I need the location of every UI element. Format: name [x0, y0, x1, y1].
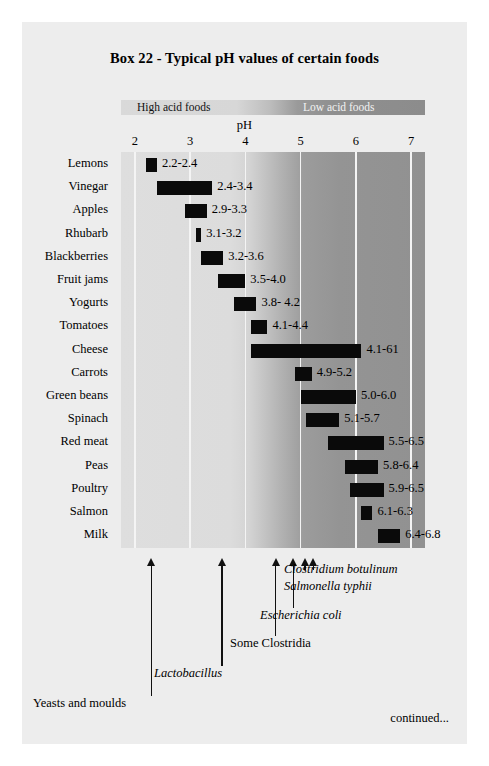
bar-red-meat [328, 436, 383, 450]
bar-value-label: 4.9-5.2 [317, 365, 352, 380]
bar-rhubarb [196, 228, 202, 242]
bar-row: 2.2-2.4 [121, 154, 425, 176]
bar-vinegar [157, 181, 212, 195]
high-acid-label: High acid foods [137, 100, 210, 115]
bar-value-label: 2.2-2.4 [162, 156, 197, 171]
bar-fruit-jams [218, 274, 246, 288]
acidity-gradient-band: High acid foods Low acid foods [121, 100, 425, 115]
food-label-yogurts: Yogurts [69, 295, 108, 310]
bar-row: 5.5-6.5 [121, 432, 425, 454]
bar-row: 4.1-4.4 [121, 316, 425, 338]
bar-row: 3.1-3.2 [121, 224, 425, 246]
low-acid-label: Low acid foods [303, 100, 375, 115]
bar-value-label: 5.0-6.0 [361, 388, 396, 403]
x-tick-5: 5 [298, 134, 304, 149]
annotation-label-clostridium-botulinum: Clostridium botulinum [284, 562, 398, 577]
bar-lemons [146, 158, 157, 172]
bar-value-label: 5.1-5.7 [344, 411, 379, 426]
arrow-line-salmonella-typhii [313, 565, 314, 570]
annotation-label-escherichia-coli: Escherichia coli [260, 608, 342, 623]
x-tick-3: 3 [187, 134, 193, 149]
food-label-vinegar: Vinegar [68, 179, 108, 194]
bar-value-label: 2.4-3.4 [217, 179, 252, 194]
bar-value-label: 3.5-4.0 [250, 272, 285, 287]
food-label-spinach: Spinach [68, 411, 108, 426]
bar-row: 5.1-5.7 [121, 409, 425, 431]
bar-row: 2.4-3.4 [121, 177, 425, 199]
bar-value-label: 5.8-6.4 [383, 458, 418, 473]
page-title: Box 22 - Typical pH values of certain fo… [22, 50, 467, 67]
food-label-rhubarb: Rhubarb [65, 226, 108, 241]
food-label-blackberries: Blackberries [45, 249, 108, 264]
annotation-label-lactobacillus: Lactobacillus [154, 666, 222, 681]
annotation-label-yeasts-and-moulds: Yeasts and moulds [33, 696, 126, 711]
bar-value-label: 3.2-3.6 [228, 249, 263, 264]
food-label-lemons: Lemons [68, 156, 108, 171]
food-label-apples: Apples [73, 202, 108, 217]
annotation-label-salmonella-typhii: Salmonella typhii [284, 579, 372, 594]
bar-value-label: 5.9-6.5 [389, 481, 424, 496]
food-label-poultry: Poultry [71, 481, 108, 496]
bar-row: 6.4-6.8 [121, 525, 425, 547]
bar-value-label: 6.1-6.3 [377, 504, 412, 519]
bar-value-label: 2.9-3.3 [212, 202, 247, 217]
x-tick-6: 6 [353, 134, 359, 149]
continued-label: continued... [390, 711, 449, 726]
food-label-green-beans: Green beans [46, 388, 108, 403]
food-label-cheese: Cheese [72, 342, 108, 357]
annotation-label-some-clostridia: Some Clostridia [230, 636, 311, 651]
bar-value-label: 6.4-6.8 [405, 527, 440, 542]
arrow-line-lactobacillus [221, 565, 222, 666]
bar-value-label: 5.5-6.5 [389, 434, 424, 449]
bar-row: 5.9-6.5 [121, 479, 425, 501]
arrow-line-some-clostridia [275, 565, 276, 636]
bar-tomatoes [251, 320, 268, 334]
bar-green-beans [301, 390, 356, 404]
food-label-carrots: Carrots [71, 365, 108, 380]
food-label-tomatoes: Tomatoes [60, 318, 108, 333]
food-label-milk: Milk [84, 527, 108, 542]
bar-row: 6.1-6.3 [121, 502, 425, 524]
bar-cheese [251, 344, 362, 358]
arrow-line-yeasts-and-moulds [151, 565, 152, 696]
bar-milk [378, 529, 400, 543]
bar-blackberries [201, 251, 223, 265]
bar-row: 3.2-3.6 [121, 247, 425, 269]
bar-row: 3.8- 4.2 [121, 293, 425, 315]
bar-peas [345, 460, 378, 474]
food-label-fruit-jams: Fruit jams [57, 272, 108, 287]
bar-carrots [295, 367, 312, 381]
x-tick-2: 2 [132, 134, 138, 149]
bar-row: 2.9-3.3 [121, 200, 425, 222]
x-axis-tick-labels: 234567 [22, 134, 467, 150]
bar-yogurts [234, 297, 256, 311]
ph-axis-title: pH [22, 118, 467, 133]
bar-value-label: 4.1-61 [366, 342, 398, 357]
bar-poultry [350, 483, 383, 497]
food-label-peas: Peas [85, 458, 108, 473]
food-category-labels: LemonsVinegarApplesRhubarbBlackberriesFr… [22, 152, 116, 548]
bar-value-label: 3.8- 4.2 [261, 295, 300, 310]
page-card: Box 22 - Typical pH values of certain fo… [22, 22, 467, 744]
bar-spinach [306, 413, 339, 427]
bar-row: 4.9-5.2 [121, 363, 425, 385]
bar-value-label: 3.1-3.2 [206, 226, 241, 241]
bar-salmon [361, 506, 372, 520]
food-label-red-meat: Red meat [60, 434, 108, 449]
bar-row: 3.5-4.0 [121, 270, 425, 292]
chart-plot-area: 2.2-2.42.4-3.42.9-3.33.1-3.23.2-3.63.5-4… [121, 152, 425, 548]
bar-row: 5.8-6.4 [121, 456, 425, 478]
x-tick-7: 7 [408, 134, 414, 149]
bar-value-label: 4.1-4.4 [272, 318, 307, 333]
bar-apples [185, 204, 207, 218]
x-tick-4: 4 [242, 134, 248, 149]
food-label-salmon: Salmon [70, 504, 108, 519]
bar-row: 4.1-61 [121, 340, 425, 362]
bar-row: 5.0-6.0 [121, 386, 425, 408]
